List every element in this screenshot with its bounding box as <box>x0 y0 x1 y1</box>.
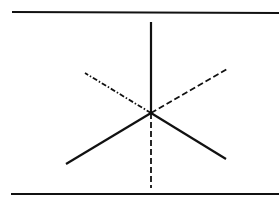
axis-lower-right-solid <box>151 113 226 159</box>
top-frame-line <box>12 12 279 13</box>
axis-lower-left-solid <box>66 113 151 164</box>
axis-upper-right-dashed <box>151 69 227 113</box>
axes-diagram <box>0 0 279 198</box>
axis-upper-left-dashdot <box>85 73 151 113</box>
axes-group <box>66 22 227 188</box>
